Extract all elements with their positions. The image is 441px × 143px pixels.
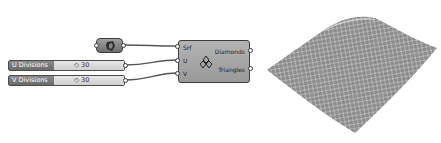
v-input-grip[interactable] bbox=[175, 71, 180, 76]
surface-icon bbox=[105, 40, 116, 52]
slider-track[interactable]: ◇ 30 bbox=[54, 61, 124, 70]
surface-node-input-grip[interactable] bbox=[94, 43, 99, 48]
u-slider-output-grip[interactable] bbox=[123, 63, 128, 68]
output-triangles[interactable]: Triangles bbox=[218, 66, 245, 73]
v-slider-output-grip[interactable] bbox=[123, 78, 128, 83]
slider-track[interactable]: ◇ 30 bbox=[54, 76, 124, 85]
triangles-output-grip[interactable] bbox=[248, 66, 253, 71]
input-srf[interactable]: Srf bbox=[183, 44, 191, 51]
srf-input-grip[interactable] bbox=[175, 44, 180, 49]
diamond-surface-preview bbox=[265, 0, 441, 143]
v-divisions-slider[interactable]: V Divisions ◇ 30 bbox=[8, 75, 125, 86]
u-input-grip[interactable] bbox=[175, 58, 180, 63]
slider-value: ◇ 30 bbox=[74, 61, 89, 70]
diamonds-output-grip[interactable] bbox=[248, 48, 253, 53]
diamond-panels-component[interactable]: Srf U V Diamonds Triangles bbox=[178, 40, 250, 83]
grasshopper-canvas[interactable]: U Divisions ◇ 30 V Divisions ◇ 30 Srf U … bbox=[0, 0, 441, 143]
surface-node-output-grip[interactable] bbox=[121, 43, 126, 48]
surface-parameter-node[interactable] bbox=[96, 38, 123, 53]
slider-value: ◇ 30 bbox=[74, 76, 89, 85]
slider-label: V Divisions bbox=[9, 76, 54, 85]
diamond-panels-icon bbox=[199, 55, 213, 69]
slider-label: U Divisions bbox=[9, 61, 54, 70]
u-divisions-slider[interactable]: U Divisions ◇ 30 bbox=[8, 60, 125, 71]
output-diamonds[interactable]: Diamonds bbox=[215, 48, 245, 55]
input-v[interactable]: V bbox=[183, 70, 187, 77]
input-u[interactable]: U bbox=[183, 57, 187, 64]
